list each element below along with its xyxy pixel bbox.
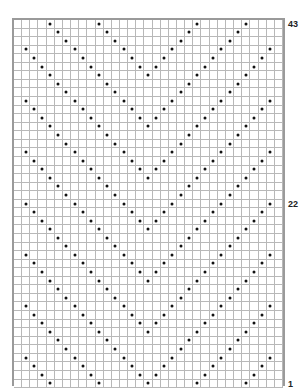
chart-cell xyxy=(144,200,152,209)
chart-cell xyxy=(55,166,63,175)
chart-cell xyxy=(259,337,267,346)
chart-cell xyxy=(71,380,79,389)
dot-stitch-icon xyxy=(252,271,255,274)
chart-cell xyxy=(161,174,169,183)
chart-cell xyxy=(193,285,201,294)
chart-cell xyxy=(161,80,169,89)
dot-stitch-icon xyxy=(32,108,35,111)
chart-cell xyxy=(234,268,242,277)
chart-cell xyxy=(226,63,234,72)
chart-cell xyxy=(226,277,234,286)
chart-cell xyxy=(112,354,120,363)
chart-cell xyxy=(275,71,283,80)
chart-cell xyxy=(234,294,242,303)
chart-cell xyxy=(112,166,120,175)
chart-cell xyxy=(30,88,38,97)
chart-cell xyxy=(259,200,267,209)
chart-cell xyxy=(104,183,112,192)
chart-cell xyxy=(259,71,267,80)
chart-cell xyxy=(250,285,258,294)
chart-cell xyxy=(128,277,136,286)
chart-cell xyxy=(47,311,55,320)
chart-cell xyxy=(14,54,22,63)
dot-stitch-icon xyxy=(146,330,149,333)
chart-cell xyxy=(210,251,218,260)
chart-cell xyxy=(210,320,218,329)
chart-cell xyxy=(275,234,283,243)
chart-cell xyxy=(79,208,87,217)
chart-cell xyxy=(47,183,55,192)
chart-cell xyxy=(177,148,185,157)
chart-cell xyxy=(161,362,169,371)
chart-cell xyxy=(112,277,120,286)
chart-cell xyxy=(71,354,79,363)
chart-cell xyxy=(234,54,242,63)
chart-cell xyxy=(79,20,87,29)
chart-cell xyxy=(47,371,55,380)
chart-cell xyxy=(47,97,55,106)
chart-cell xyxy=(242,320,250,329)
dot-stitch-icon xyxy=(204,322,207,325)
chart-cell xyxy=(71,131,79,140)
chart-cell xyxy=(185,362,193,371)
chart-cell xyxy=(226,54,234,63)
dot-stitch-icon xyxy=(269,48,272,51)
chart-cell xyxy=(96,106,104,115)
chart-cell xyxy=(193,29,201,38)
chart-cell xyxy=(193,174,201,183)
chart-cell xyxy=(161,37,169,46)
chart-cell xyxy=(259,157,267,166)
dot-stitch-icon xyxy=(269,356,272,359)
chart-cell xyxy=(177,260,185,269)
dot-stitch-icon xyxy=(195,228,198,231)
chart-cell xyxy=(161,260,169,269)
chart-cell xyxy=(63,131,71,140)
chart-cell xyxy=(104,302,112,311)
chart-cell xyxy=(87,46,95,55)
dot-stitch-icon xyxy=(261,57,264,60)
chart-cell xyxy=(104,63,112,72)
chart-cell xyxy=(161,148,169,157)
chart-cell xyxy=(55,234,63,243)
chart-cell xyxy=(169,54,177,63)
chart-cell xyxy=(218,183,226,192)
dot-stitch-icon xyxy=(98,125,101,128)
chart-cell xyxy=(112,234,120,243)
chart-cell xyxy=(136,251,144,260)
chart-cell xyxy=(250,354,258,363)
chart-cell xyxy=(185,354,193,363)
dot-stitch-icon xyxy=(179,348,182,351)
chart-cell xyxy=(120,260,128,269)
chart-cell xyxy=(30,320,38,329)
chart-cell xyxy=(226,243,234,252)
chart-cell xyxy=(38,20,46,29)
dot-stitch-icon xyxy=(220,151,223,154)
chart-cell xyxy=(153,123,161,132)
dot-stitch-icon xyxy=(252,373,255,376)
dot-stitch-icon xyxy=(236,134,239,137)
chart-cell xyxy=(218,328,226,337)
chart-cell xyxy=(55,217,63,226)
chart-cell xyxy=(22,311,30,320)
chart-cell xyxy=(79,157,87,166)
chart-cell xyxy=(47,157,55,166)
chart-cell xyxy=(144,251,152,260)
dot-stitch-icon xyxy=(269,253,272,256)
chart-cell xyxy=(96,80,104,89)
dot-stitch-icon xyxy=(163,262,166,265)
dot-stitch-icon xyxy=(204,168,207,171)
chart-cell xyxy=(22,200,30,209)
chart-cell xyxy=(63,371,71,380)
chart-cell xyxy=(185,29,193,38)
chart-cell xyxy=(104,328,112,337)
chart-cell xyxy=(242,131,250,140)
chart-cell xyxy=(96,131,104,140)
chart-cell xyxy=(153,320,161,329)
chart-cell xyxy=(218,251,226,260)
chart-cell xyxy=(128,63,136,72)
chart-cell xyxy=(275,157,283,166)
chart-cell xyxy=(161,234,169,243)
chart-cell xyxy=(96,157,104,166)
row-number-label: 43 xyxy=(288,19,298,29)
chart-cell xyxy=(47,294,55,303)
